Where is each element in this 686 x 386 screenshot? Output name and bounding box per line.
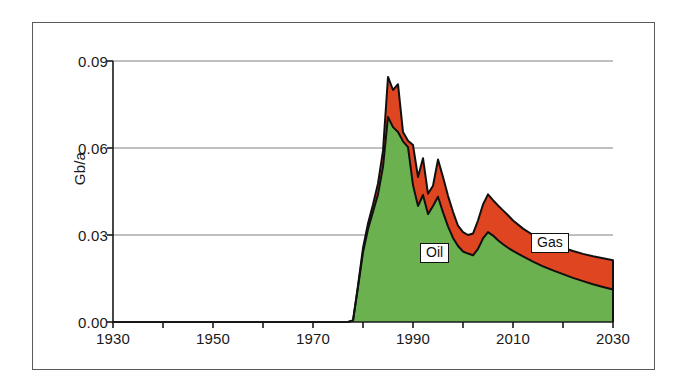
series-label-gas: Gas (531, 233, 569, 253)
y-tick-label-0: 0.09 (56, 53, 108, 70)
x-tick-label-2: 1970 (283, 330, 343, 347)
x-tick-label-4: 2010 (483, 330, 543, 347)
series-label-oil: Oil (420, 243, 449, 263)
x-tick-label-0: 1930 (83, 330, 143, 347)
y-tick-label-1: 0.06 (56, 140, 108, 157)
figure-canvas: Gb/a 0.09 0.06 0.03 0.00 1930 1950 1970 … (0, 0, 686, 386)
x-tick-label-5: 2030 (583, 330, 643, 347)
y-tick-label-2: 0.03 (56, 227, 108, 244)
x-tick-label-3: 1990 (383, 330, 443, 347)
x-tick-label-1: 1950 (183, 330, 243, 347)
y-tick-label-3: 0.00 (56, 314, 108, 331)
